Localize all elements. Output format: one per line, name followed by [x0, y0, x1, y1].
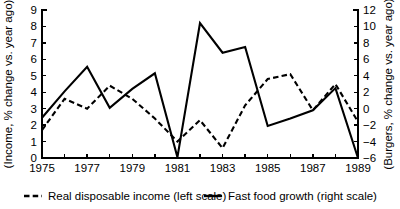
x-tick-label: 1983	[210, 162, 236, 174]
left-tick-label: 1	[31, 136, 37, 148]
x-tick-label: 1985	[255, 162, 281, 174]
right-tick-label: 8	[363, 37, 369, 49]
right-tick-label: 10	[363, 20, 376, 32]
right-tick-label: 6	[363, 53, 369, 65]
left-axis-title: (Income, % change vs. year ago)	[2, 0, 14, 168]
line-chart: (Income, % change vs. year ago) (Burgers…	[0, 0, 400, 209]
left-axis-line	[42, 10, 47, 158]
left-tick-label: 5	[31, 70, 37, 82]
legend-label-fast-food-growth: Fast food growth (right scale)	[228, 190, 377, 202]
left-tick-label: 2	[31, 119, 37, 131]
left-axis-ticks: 0123456789	[31, 4, 46, 164]
x-tick-label: 1977	[74, 162, 100, 174]
right-tick-label: 0	[363, 103, 369, 115]
right-tick-label: 12	[363, 4, 376, 16]
series-fast-food-growth	[42, 23, 358, 158]
right-tick-label: 4	[363, 70, 370, 82]
left-tick-label: 8	[31, 20, 37, 32]
legend-label-real-disposable-income: Real disposable income (left scale)	[48, 190, 227, 202]
x-tick-label: 1989	[345, 162, 371, 174]
right-tick-label: −4	[363, 136, 377, 148]
right-axis-title: (Burgers, % change vs. year ago)	[382, 0, 394, 170]
chart-legend: Real disposable income (left scale) Fast…	[24, 190, 377, 202]
chart-container: (Income, % change vs. year ago) (Burgers…	[0, 0, 400, 209]
left-tick-label: 7	[31, 37, 37, 49]
left-tick-label: 3	[31, 103, 37, 115]
x-tick-label: 1975	[29, 162, 55, 174]
left-tick-label: 9	[31, 4, 37, 16]
x-axis-ticks: 19751977197919811983198519871989	[29, 154, 371, 174]
left-tick-label: 6	[31, 53, 37, 65]
right-tick-label: 2	[363, 86, 369, 98]
right-axis-line	[353, 10, 358, 158]
x-tick-label: 1979	[119, 162, 145, 174]
left-tick-label: 4	[31, 86, 38, 98]
right-tick-label: −2	[363, 119, 376, 131]
x-tick-label: 1987	[300, 162, 326, 174]
x-tick-label: 1981	[165, 162, 191, 174]
